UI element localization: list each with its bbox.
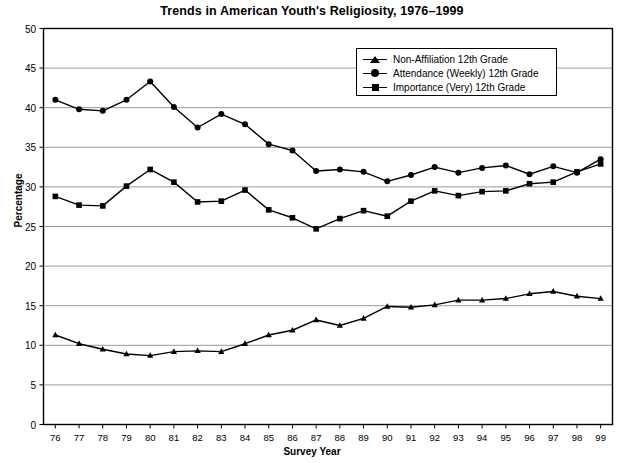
data-point	[313, 226, 319, 232]
data-point	[219, 198, 225, 204]
legend-item: Attendance (Weekly) 12th Grade	[363, 66, 550, 80]
data-point	[503, 188, 509, 194]
x-tick-label: 97	[541, 432, 565, 443]
data-point	[384, 213, 390, 219]
data-point	[52, 332, 58, 338]
x-tick-label: 91	[399, 432, 423, 443]
x-tick-label: 83	[209, 432, 233, 443]
x-tick-label: 99	[589, 432, 613, 443]
y-tick-label: 35	[6, 142, 36, 153]
y-tick-label: 30	[6, 181, 36, 192]
square-marker-icon	[363, 81, 387, 93]
data-point	[195, 125, 201, 131]
x-tick-label: 77	[67, 432, 91, 443]
x-tick-label: 76	[43, 432, 67, 443]
legend-label: Attendance (Weekly) 12th Grade	[393, 68, 538, 79]
data-point	[384, 178, 390, 184]
y-tick-label: 0	[6, 419, 36, 430]
x-tick-label: 81	[162, 432, 186, 443]
x-tick-label: 85	[257, 432, 281, 443]
data-point	[361, 208, 367, 214]
data-point	[123, 97, 129, 103]
data-point	[479, 189, 485, 195]
x-tick-label: 84	[233, 432, 257, 443]
data-point	[337, 166, 343, 172]
x-tick-label: 82	[186, 432, 210, 443]
data-point	[550, 179, 556, 185]
legend-item: Non-Affiliation 12th Grade	[363, 52, 550, 66]
data-point	[574, 169, 580, 175]
x-tick-label: 80	[138, 432, 162, 443]
data-point	[100, 108, 106, 114]
x-tick-label: 89	[352, 432, 376, 443]
series-triangle	[52, 288, 603, 358]
data-point	[408, 172, 414, 178]
data-point	[218, 111, 224, 117]
data-point	[147, 167, 153, 173]
data-point	[195, 199, 201, 205]
data-point	[361, 169, 367, 175]
data-point	[313, 317, 319, 323]
y-tick-label: 40	[6, 102, 36, 113]
y-tick-label: 10	[6, 340, 36, 351]
legend-label: Non-Affiliation 12th Grade	[393, 54, 508, 65]
data-point	[503, 163, 509, 169]
data-point	[598, 161, 604, 167]
series-line	[55, 82, 600, 182]
chart-legend: Non-Affiliation 12th GradeAttendance (We…	[356, 48, 557, 96]
y-tick-label: 50	[6, 23, 36, 34]
data-point	[432, 164, 438, 170]
x-tick-label: 90	[375, 432, 399, 443]
data-point	[313, 168, 319, 174]
x-tick-label: 93	[446, 432, 470, 443]
y-tick-label: 15	[6, 300, 36, 311]
data-point	[76, 106, 82, 112]
x-tick-label: 92	[423, 432, 447, 443]
data-point	[100, 203, 106, 209]
x-tick-label: 79	[114, 432, 138, 443]
x-tick-label: 86	[280, 432, 304, 443]
data-point	[171, 104, 177, 110]
data-point	[432, 188, 438, 194]
triangle-marker-icon	[363, 53, 387, 65]
data-point	[266, 207, 272, 213]
data-point	[76, 202, 82, 208]
data-point	[455, 170, 461, 176]
x-tick-label: 95	[494, 432, 518, 443]
data-point	[242, 187, 248, 193]
x-tick-label: 88	[328, 432, 352, 443]
legend-item: Importance (Very) 12th Grade	[363, 80, 550, 94]
x-tick-label: 94	[470, 432, 494, 443]
data-point	[147, 79, 153, 85]
data-point	[550, 288, 556, 294]
data-point	[550, 163, 556, 169]
circle-marker-icon	[363, 67, 387, 79]
x-tick-label: 96	[518, 432, 542, 443]
data-point	[171, 179, 177, 185]
data-point	[479, 165, 485, 171]
y-tick-label: 5	[6, 379, 36, 390]
data-point	[266, 141, 272, 147]
x-tick-label: 87	[304, 432, 328, 443]
data-point	[52, 97, 58, 103]
legend-label: Importance (Very) 12th Grade	[393, 82, 525, 93]
data-point	[527, 171, 533, 177]
x-tick-label: 98	[565, 432, 589, 443]
x-tick-label: 78	[91, 432, 115, 443]
y-tick-label: 45	[6, 63, 36, 74]
series-line	[55, 164, 600, 229]
data-point	[242, 121, 248, 127]
y-tick-label: 25	[6, 221, 36, 232]
data-point	[289, 147, 295, 153]
chart-container: Trends in American Youth's Religiosity, …	[0, 0, 624, 463]
data-point	[290, 215, 296, 221]
data-point	[527, 181, 533, 187]
data-point	[53, 194, 59, 200]
y-tick-label: 20	[6, 261, 36, 272]
data-point	[456, 193, 462, 199]
series-line	[55, 291, 600, 355]
data-point	[124, 183, 130, 189]
data-point	[408, 198, 414, 204]
data-point	[337, 216, 343, 222]
